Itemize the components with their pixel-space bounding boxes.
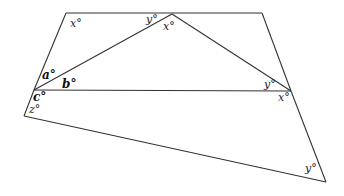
angle-label-c: c°	[33, 90, 46, 104]
bottom-edge	[24, 116, 326, 182]
angle-label-x-top-left: x°	[70, 17, 82, 30]
angle-label-x-apex: x°	[163, 20, 175, 33]
angle-label-x-right-mid: x°	[278, 91, 290, 104]
angle-label-b: b°	[62, 77, 76, 91]
angle-label-y-bottom-right: y°	[304, 162, 317, 175]
angle-label-a: a°	[42, 68, 56, 82]
angle-label-y-right-mid: y°	[263, 78, 276, 91]
geometry-diagram: x° y° x° a° b° c° z° y° x° y°	[0, 0, 344, 196]
angle-label-z: z°	[28, 103, 40, 116]
angle-label-y-top: y°	[145, 13, 158, 26]
